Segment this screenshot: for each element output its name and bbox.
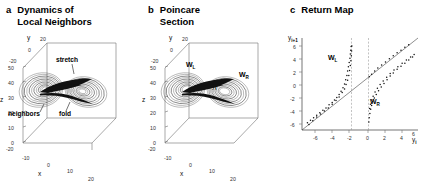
- c-y-tick-4: 4: [293, 57, 296, 63]
- data-point: [328, 107, 330, 109]
- panel-a-y-axis: 20 0 -20 y: [9, 34, 46, 64]
- data-point: [345, 84, 347, 86]
- data-point: [371, 73, 373, 75]
- data-point: [369, 113, 371, 115]
- panel-c-letter: c: [290, 4, 295, 15]
- data-point: [374, 91, 376, 93]
- z-axis-label: z: [142, 96, 145, 103]
- panel-b-title-line2: Section: [160, 16, 194, 27]
- return-map-guides: [302, 38, 418, 130]
- figure-root: a Dynamics of Local Neighbors: [0, 0, 424, 195]
- data-point: [374, 70, 376, 72]
- y-axis-label: yi+1: [288, 34, 298, 43]
- data-point: [351, 45, 353, 47]
- z-tick-40: 40: [8, 80, 14, 86]
- panel-b-axes-box: [165, 43, 258, 143]
- label-w-left-c: WL: [328, 54, 338, 63]
- data-point: [347, 70, 348, 72]
- panel-b: b Poincare Section 50 40 30: [142, 0, 284, 195]
- data-point: [393, 72, 395, 74]
- identity-line: [302, 38, 418, 130]
- data-point: [316, 116, 318, 118]
- data-point: [377, 67, 379, 69]
- panel-b-title: Poincare Section: [160, 4, 200, 27]
- data-point: [338, 96, 340, 98]
- data-point: [410, 56, 412, 58]
- data-point: [338, 94, 340, 96]
- panel-b-x-axis: -20 -10 0 10 20 x: [148, 146, 236, 182]
- data-point: [377, 88, 379, 90]
- data-point: [396, 52, 398, 54]
- data-point: [345, 79, 347, 81]
- data-point: [382, 80, 384, 82]
- data-point: [381, 64, 383, 66]
- panel-b-title-line1: Poincare: [160, 4, 200, 15]
- c-y-tick-neg4: -4: [290, 109, 295, 115]
- data-point: [393, 55, 395, 57]
- data-point: [406, 59, 408, 61]
- c-y-tick-6: 6: [293, 44, 296, 50]
- x-tick-neg10: -10: [164, 155, 172, 161]
- data-point: [385, 61, 387, 63]
- z-tick-40: 40: [150, 80, 156, 86]
- panel-b-header: b Poincare Section: [148, 4, 200, 27]
- data-point: [349, 70, 351, 72]
- data-point: [386, 79, 388, 81]
- data-point: [331, 102, 333, 104]
- z-tick-30: 30: [150, 95, 156, 101]
- panel-b-letter: b: [148, 4, 154, 15]
- data-point: [324, 110, 326, 112]
- c-y-tick-neg2: -2: [290, 96, 295, 102]
- label-w-right: WR: [239, 71, 250, 80]
- data-point: [344, 83, 346, 85]
- y-tick-neg20: -20: [9, 58, 17, 64]
- x-tick-10: 10: [67, 168, 73, 174]
- c-x-tick-neg4: -4: [330, 135, 335, 141]
- data-point: [348, 62, 350, 64]
- data-point: [386, 77, 388, 79]
- z-tick-10: 10: [8, 125, 14, 131]
- data-point: [350, 53, 352, 55]
- x-tick-20: 20: [230, 176, 236, 182]
- data-point: [341, 92, 343, 94]
- data-point: [389, 75, 391, 77]
- c-x-tick-2: 2: [383, 135, 386, 141]
- x-tick-neg20: -20: [148, 146, 156, 152]
- z-tick-20: 20: [150, 110, 156, 116]
- lorenz-attractor-b: [158, 69, 252, 111]
- data-point: [347, 80, 348, 82]
- data-point: [413, 54, 415, 56]
- panel-c-annotations: WL WR: [328, 54, 381, 107]
- data-point: [308, 124, 310, 126]
- panel-a-header: a Dynamics of Local Neighbors: [6, 4, 92, 27]
- annotation-stretch: stretch: [56, 56, 78, 63]
- x-axis-label: yi: [412, 136, 416, 145]
- panel-c-header: c Return Map: [290, 4, 354, 16]
- z-tick-10: 10: [150, 125, 156, 131]
- panel-c-title: Return Map: [301, 4, 353, 16]
- annotation-fold: fold: [59, 110, 71, 117]
- data-point: [340, 91, 342, 93]
- y-tick-20: 20: [40, 36, 46, 42]
- c-x-tick-neg2: -2: [347, 135, 352, 141]
- data-point: [369, 117, 371, 119]
- c-x-tick-4: 4: [400, 135, 403, 141]
- z-tick-50: 50: [8, 65, 14, 71]
- x-tick-10: 10: [209, 168, 215, 174]
- z-tick-50: 50: [150, 65, 156, 71]
- data-point: [346, 75, 348, 77]
- data-point: [383, 83, 385, 85]
- y-tick-0: 0: [170, 47, 173, 53]
- data-point: [328, 104, 330, 106]
- data-point: [350, 60, 352, 62]
- data-point: [350, 65, 352, 67]
- panel-a-letter: a: [6, 4, 11, 15]
- panel-b-plot: 50 40 30 20 10 0 z 20 0 -: [142, 30, 284, 195]
- panel-c-x-axis: yi -6 -4 -2 0 2 4 6: [313, 130, 416, 145]
- data-point: [372, 96, 374, 98]
- series-W_R: [368, 56, 413, 123]
- data-point: [310, 119, 312, 121]
- c-x-tick-6: 6: [412, 131, 415, 137]
- x-tick-0: 0: [189, 162, 192, 168]
- data-point: [331, 103, 333, 105]
